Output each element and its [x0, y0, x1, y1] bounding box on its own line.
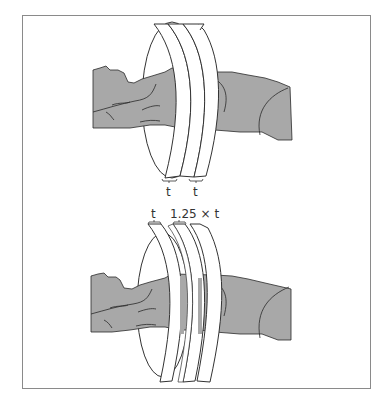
- thickness-label: t: [151, 207, 156, 221]
- thickness-label: t: [193, 185, 198, 199]
- gap-shade: [198, 278, 202, 334]
- thickness-label: t: [166, 185, 171, 199]
- interval-label: 1.25 × t: [170, 207, 219, 221]
- panel-contiguous: t t: [93, 22, 292, 199]
- thickness-bracket: [189, 179, 203, 183]
- ct-slice-diagram: t t t 1.25 × t: [0, 0, 386, 402]
- gap-shade: [180, 276, 184, 334]
- thickness-bracket: [162, 179, 177, 183]
- panel-spaced: t 1.25 × t: [91, 207, 291, 382]
